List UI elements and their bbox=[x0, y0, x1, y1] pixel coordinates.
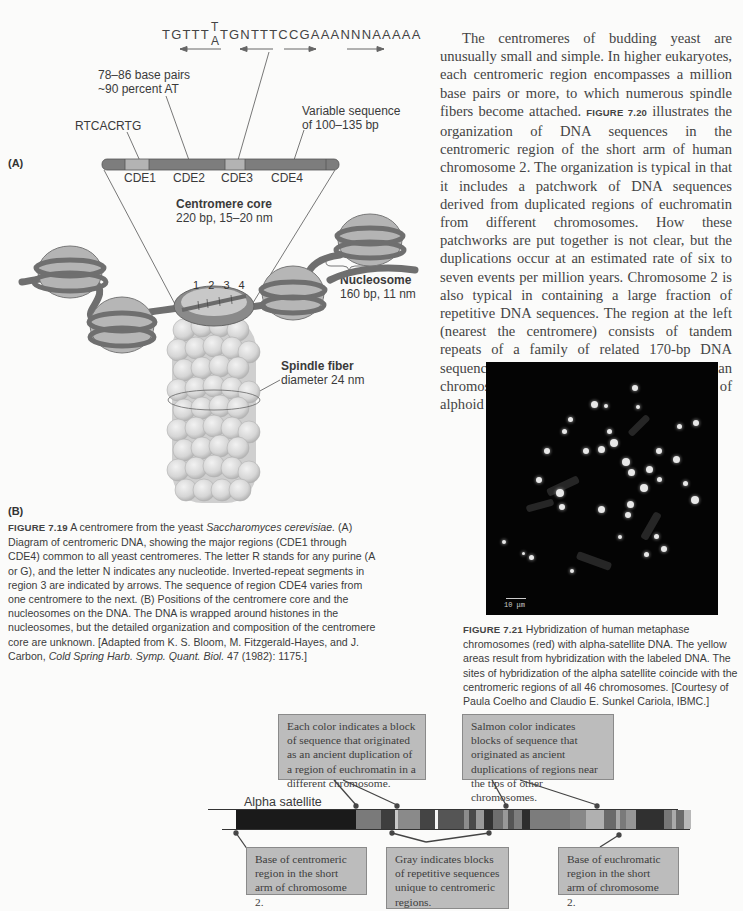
ring-number-2: 2 bbox=[208, 279, 217, 291]
figure-7-21-label: FIGURE 7.21 bbox=[463, 624, 523, 635]
body-text-b: illustrates the organization of DNA sequ… bbox=[440, 103, 732, 376]
spindle-fiber bbox=[167, 315, 260, 503]
cde-bar bbox=[102, 159, 339, 170]
centromere-core-ring bbox=[174, 286, 254, 326]
ring-cde-numbers: 1 2 3 4 bbox=[193, 279, 248, 291]
callout-gray: Gray indicates blocks of repetitive sequ… bbox=[386, 847, 509, 909]
species-name: Saccharomyces cerevisiae. bbox=[206, 521, 335, 533]
figure-7-19-caption: FIGURE 7.19 A centromere from the yeast … bbox=[8, 520, 380, 663]
figure-7-21-caption: FIGURE 7.21 Hybridization of human metap… bbox=[463, 622, 738, 708]
ring-number-1: 1 bbox=[193, 279, 202, 291]
scale-bar bbox=[506, 598, 526, 599]
nucleosome-upper-right bbox=[336, 214, 404, 266]
callout-each-color: Each color indicates a block of sequence… bbox=[278, 714, 426, 780]
nucleosome-upper-left bbox=[34, 246, 106, 298]
callout-base-euchromatic: Base of euchromatic region in the short … bbox=[558, 847, 679, 895]
centromere-diagram bbox=[0, 0, 420, 530]
nucleosome-lower-left bbox=[89, 297, 155, 353]
caption-text-3: 47 (1982): 1175.] bbox=[224, 650, 307, 662]
body-paragraph: The centromeres of budding yeast are unu… bbox=[440, 29, 732, 415]
callout-connectors bbox=[200, 775, 700, 855]
callout-salmon: Salmon color indicates blocks of sequenc… bbox=[462, 714, 614, 780]
nucleosome-right bbox=[261, 266, 325, 320]
figure-7-21-caption-text: Hybridization of human metaphase chromos… bbox=[463, 623, 737, 707]
figure-7-19-label: FIGURE 7.19 bbox=[8, 522, 68, 533]
ring-number-3: 3 bbox=[223, 279, 232, 291]
figure-7-20-reference[interactable]: FIGURE 7.20 bbox=[586, 107, 647, 118]
caption-text-1: A centromere from the yeast bbox=[68, 521, 206, 533]
hybridization-micrograph: 10 μm bbox=[486, 362, 718, 615]
scale-bar-label: 10 μm bbox=[504, 601, 525, 609]
inverted-repeat-arrows bbox=[180, 47, 384, 52]
journal-name: Cold Spring Harb. Symp. Quant. Biol. bbox=[49, 650, 224, 662]
caption-text-2: (A) Diagram of centromeric DNA, showing … bbox=[8, 521, 375, 662]
callout-base-centromeric: Base of centromeric region in the short … bbox=[246, 847, 367, 895]
ring-number-4: 4 bbox=[239, 279, 248, 291]
